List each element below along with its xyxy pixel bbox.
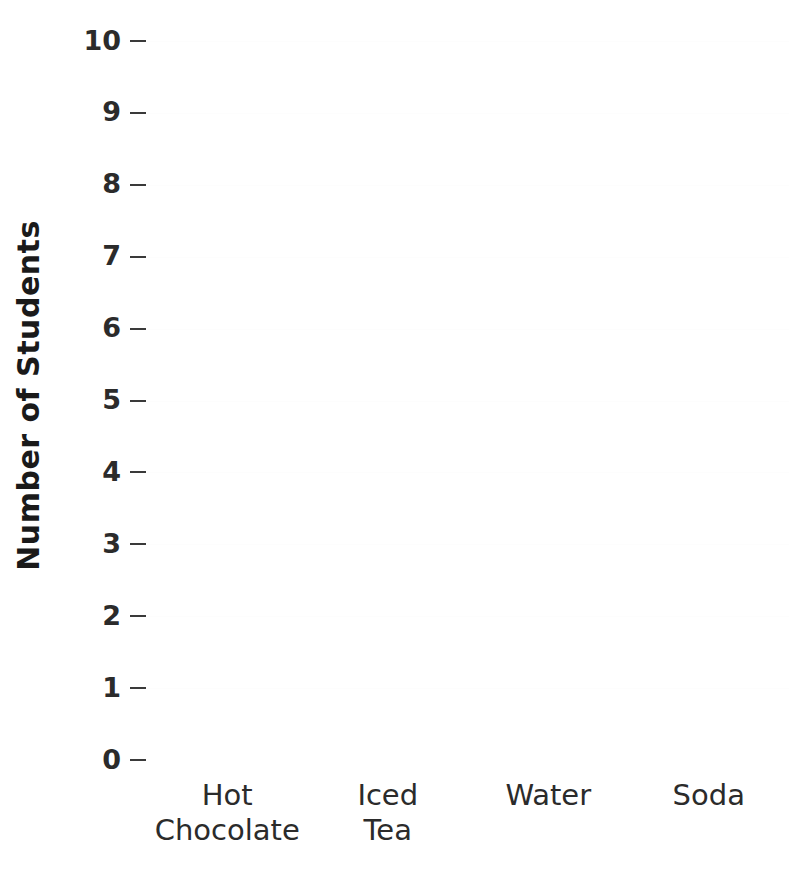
y-axis-ticks: 109876543210 <box>60 0 155 879</box>
y-tick-label: 0 <box>102 746 124 773</box>
y-tick-mark <box>130 184 146 186</box>
plot-area <box>147 41 789 760</box>
gridline <box>147 544 789 545</box>
x-tick-label: Hot Chocolate <box>147 778 308 849</box>
y-tick-mark <box>130 256 146 258</box>
x-tick-label: Water <box>468 778 629 813</box>
y-tick-label: 4 <box>102 458 124 485</box>
y-tick-label: 3 <box>102 530 124 557</box>
y-tick-mark <box>130 328 146 330</box>
y-tick-label: 2 <box>102 602 124 629</box>
y-tick-mark <box>130 687 146 689</box>
y-tick-mark <box>130 400 146 402</box>
y-tick-label: 10 <box>83 27 124 54</box>
y-tick-label: 8 <box>102 170 124 197</box>
bar-chart: Number of Students 109876543210 Hot Choc… <box>0 0 789 879</box>
gridline <box>147 113 789 114</box>
x-axis-labels: Hot ChocolateIced TeaWaterSoda <box>147 778 789 879</box>
gridline <box>147 41 789 42</box>
x-tick-label: Iced Tea <box>308 778 469 849</box>
gridline <box>147 257 789 258</box>
y-tick-mark <box>130 112 146 114</box>
y-tick-mark <box>130 615 146 617</box>
y-tick-mark <box>130 471 146 473</box>
y-tick-mark <box>130 759 146 761</box>
gridline <box>147 472 789 473</box>
gridline <box>147 185 789 186</box>
x-tick-label: Soda <box>629 778 789 813</box>
gridline <box>147 688 789 689</box>
gridline <box>147 329 789 330</box>
gridline <box>147 401 789 402</box>
y-tick-label: 9 <box>102 98 124 125</box>
y-tick-label: 1 <box>102 674 124 701</box>
y-tick-mark <box>130 40 146 42</box>
y-tick-label: 5 <box>102 386 124 413</box>
y-tick-mark <box>130 543 146 545</box>
y-axis-title-label: Number of Students <box>11 220 46 571</box>
y-tick-label: 7 <box>102 242 124 269</box>
y-axis-title: Number of Students <box>0 0 56 790</box>
gridline <box>147 616 789 617</box>
y-tick-label: 6 <box>102 314 124 341</box>
